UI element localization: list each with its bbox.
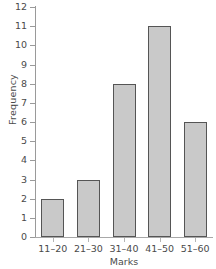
- y-tick-mark: [30, 84, 35, 85]
- y-axis-line: [35, 6, 36, 238]
- y-tick-label: 5: [5, 136, 27, 146]
- y-tick-mark: [30, 65, 35, 66]
- y-tick-label: 11: [5, 21, 27, 31]
- y-tick-label: 6: [5, 117, 27, 127]
- bar: [77, 180, 100, 238]
- y-tick-label: 1: [5, 213, 27, 223]
- x-tick-mark: [88, 238, 89, 242]
- y-tick-label: 12: [5, 2, 27, 12]
- y-tick-label: 8: [5, 79, 27, 89]
- y-tick-mark: [30, 199, 35, 200]
- x-tick-mark: [160, 238, 161, 242]
- y-tick-label: 0: [5, 232, 27, 242]
- y-tick-mark: [30, 45, 35, 46]
- y-tick-mark: [30, 141, 35, 142]
- y-tick-label: 4: [5, 155, 27, 165]
- y-tick-mark: [30, 218, 35, 219]
- x-axis-title: Marks: [35, 256, 213, 267]
- x-tick-mark: [124, 238, 125, 242]
- y-tick-label: 7: [5, 98, 27, 108]
- y-tick-label: 9: [5, 60, 27, 70]
- y-tick-mark: [30, 160, 35, 161]
- bar: [113, 84, 136, 237]
- y-tick-mark: [30, 26, 35, 27]
- bar: [41, 199, 64, 237]
- bar-chart: Frequency 0123456789101112 11–2021–3031–…: [0, 0, 216, 269]
- y-tick-label: 3: [5, 175, 27, 185]
- y-tick-mark: [30, 180, 35, 181]
- y-tick-mark: [30, 122, 35, 123]
- y-tick-label: 10: [5, 40, 27, 50]
- bar: [184, 122, 207, 237]
- x-tick-mark: [195, 238, 196, 242]
- y-tick-label: 2: [5, 194, 27, 204]
- bar: [148, 26, 171, 237]
- y-tick-mark: [30, 7, 35, 8]
- x-tick-mark: [53, 238, 54, 242]
- x-tick-label: 51–60: [172, 243, 216, 254]
- y-tick-mark: [30, 237, 35, 238]
- y-tick-mark: [30, 103, 35, 104]
